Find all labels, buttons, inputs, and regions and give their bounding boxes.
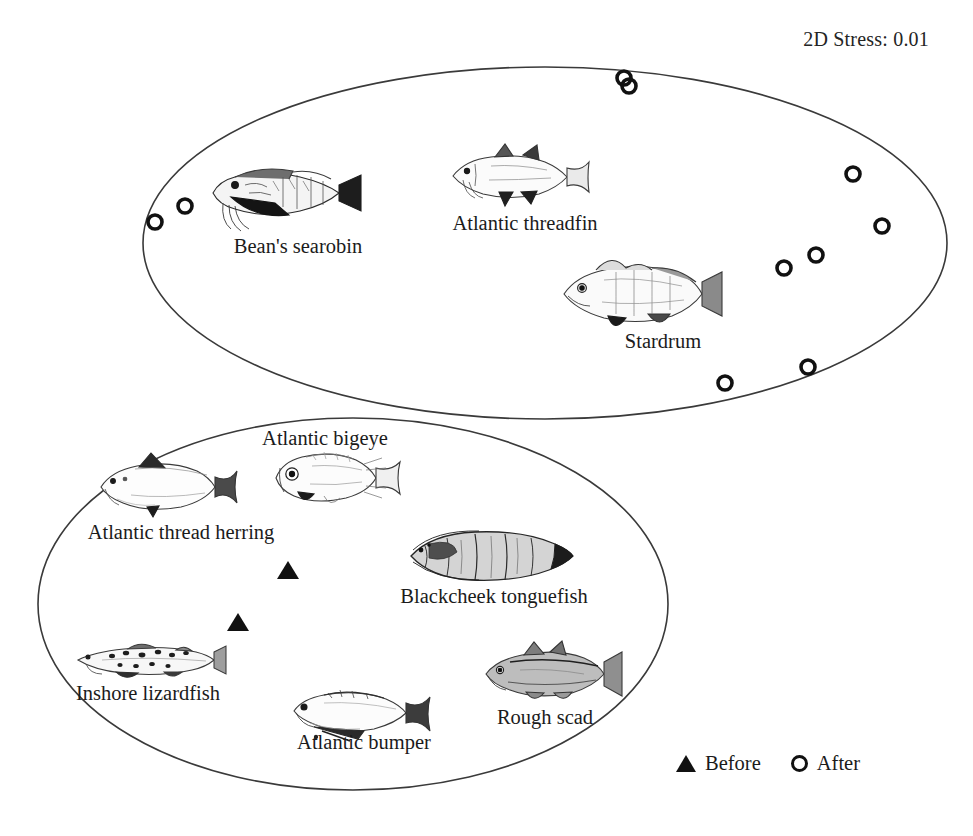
species-label: Inshore lizardfish bbox=[76, 682, 220, 705]
species-label: Atlantic bigeye bbox=[262, 427, 388, 450]
filled-triangle-icon bbox=[676, 755, 696, 772]
species-label: Atlantic threadfin bbox=[452, 212, 597, 235]
legend-entry-before: Before bbox=[676, 752, 761, 775]
mds-ordination-figure: 2D Stress: 0.01 Bean's searobinAtlantic … bbox=[0, 0, 973, 836]
open-circle-icon bbox=[791, 755, 808, 772]
species-label: Stardrum bbox=[625, 330, 701, 353]
legend-entry-after: After bbox=[791, 752, 860, 775]
species-label: Rough scad bbox=[497, 706, 593, 729]
legend: Before After bbox=[676, 752, 860, 775]
species-labels-layer: Bean's searobinAtlantic threadfinStardru… bbox=[0, 0, 973, 836]
species-label: Blackcheek tonguefish bbox=[400, 585, 587, 608]
legend-label-after: After bbox=[817, 752, 860, 775]
species-label: Bean's searobin bbox=[234, 235, 362, 258]
legend-label-before: Before bbox=[705, 752, 761, 775]
species-label: Atlantic thread herring bbox=[88, 521, 275, 544]
species-label: Atlantic bumper bbox=[297, 731, 431, 754]
